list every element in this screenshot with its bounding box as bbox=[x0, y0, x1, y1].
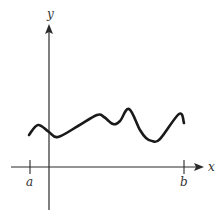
function-curve bbox=[29, 109, 184, 142]
tick-label-a: a bbox=[26, 175, 33, 189]
x-axis-label: x bbox=[208, 160, 215, 174]
y-axis-label: y bbox=[46, 7, 54, 21]
function-graph-diagram: x y a b bbox=[0, 0, 221, 220]
tick-label-b: b bbox=[180, 175, 188, 189]
